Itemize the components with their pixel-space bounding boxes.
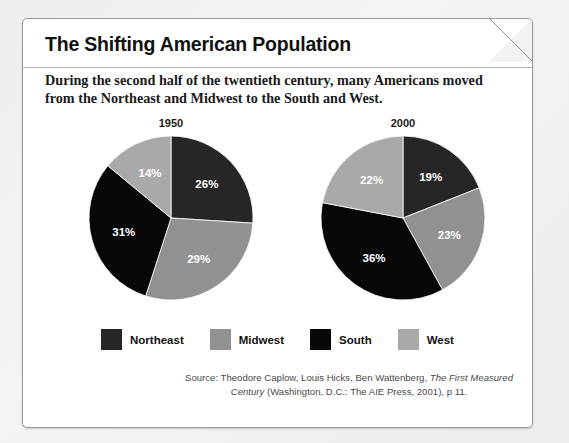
- legend-swatch-midwest: [210, 329, 231, 350]
- legend-item-northeast[interactable]: Northeast: [101, 329, 184, 350]
- legend-swatch-northeast: [101, 329, 122, 350]
- pie-slice-label-south: 36%: [363, 252, 386, 264]
- legend-item-south[interactable]: South: [310, 329, 372, 350]
- legend-label-midwest: Midwest: [239, 334, 284, 346]
- pie-slice-label-midwest: 23%: [438, 229, 461, 241]
- infographic-card: The Shifting American Population During …: [22, 18, 533, 428]
- chart-legend: NortheastMidwestSouthWest: [23, 329, 532, 350]
- chart-year-label-2000: 2000: [303, 117, 503, 129]
- pie-slice-label-south: 31%: [112, 226, 135, 238]
- legend-label-west: West: [427, 334, 454, 346]
- legend-item-west[interactable]: West: [398, 329, 454, 350]
- legend-swatch-south: [310, 329, 331, 350]
- title-divider: [23, 67, 532, 68]
- pie-slice-label-northeast: 19%: [419, 171, 442, 183]
- charts-container: 1950 26%29%31%14% 2000 19%23%36%22%: [23, 117, 532, 312]
- pie-svg-2000: 19%23%36%22%: [319, 134, 487, 302]
- source-book-title-part1: The First: [430, 372, 468, 383]
- pie-chart-2000: 2000 19%23%36%22%: [303, 117, 503, 312]
- subtitle-text: During the second half of the twentieth …: [45, 71, 505, 107]
- pie-slice-label-west: 14%: [139, 167, 162, 179]
- source-citation: Source: Theodore Caplow, Louis Hicks, Be…: [184, 371, 514, 398]
- legend-label-northeast: Northeast: [130, 334, 184, 346]
- legend-label-south: South: [339, 334, 372, 346]
- pie-slice-label-west: 22%: [360, 174, 383, 186]
- pie-slice-label-northeast: 26%: [195, 178, 218, 190]
- pie-svg-1950: 26%29%31%14%: [87, 134, 255, 302]
- source-text-line2: (Washington, D.C.: The AIE Press, 2001),…: [264, 386, 467, 397]
- source-text-line1: Source: Theodore Caplow, Louis Hicks, Be…: [185, 372, 430, 383]
- pie-slice-label-midwest: 29%: [187, 253, 210, 265]
- legend-swatch-west: [398, 329, 419, 350]
- pie-chart-1950: 1950 26%29%31%14%: [71, 117, 271, 312]
- page-title: The Shifting American Population: [45, 33, 351, 56]
- legend-item-midwest[interactable]: Midwest: [210, 329, 284, 350]
- page-fold-corner-icon: [489, 18, 533, 62]
- chart-year-label-1950: 1950: [71, 117, 271, 129]
